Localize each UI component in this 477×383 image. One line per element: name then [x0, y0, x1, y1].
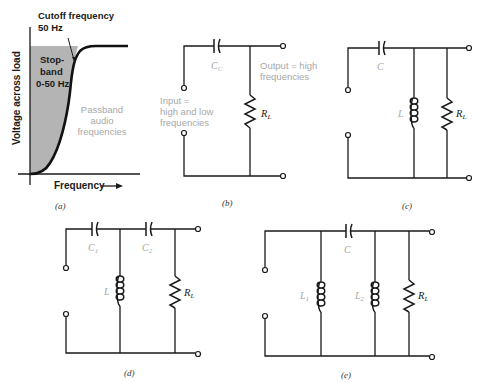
- resistor-label: RL: [417, 290, 428, 303]
- caption-c: (c): [402, 201, 412, 211]
- caption-b: (b): [222, 198, 233, 208]
- capacitor-icon: [346, 224, 352, 238]
- input-note-line3: frequencies: [160, 117, 209, 128]
- capacitor-label: C: [344, 244, 351, 255]
- input-terminal-bottom: [263, 314, 268, 319]
- output-terminal-bottom: [467, 176, 472, 181]
- input-terminal-top: [346, 88, 351, 93]
- resistor-icon: [170, 276, 180, 308]
- passband-label-line1: Passband: [81, 104, 123, 115]
- resistor-icon: [404, 280, 414, 312]
- y-axis-label: Voltage across load: [11, 51, 22, 145]
- resistor-label: RL: [455, 108, 466, 121]
- filter-figure: Cutoff frequency 50 Hz Stop- band 0-50 H…: [0, 0, 477, 383]
- panel-d-circuit: C1 C2 L RL (d): [64, 222, 201, 378]
- stopband-label-line1: Stop-: [40, 54, 64, 65]
- capacitor-1-icon: [92, 222, 98, 236]
- resistor-label: RL: [183, 287, 194, 300]
- caption-e: (e): [341, 370, 351, 380]
- input-note-line2: high and low: [160, 106, 213, 117]
- input-terminal-bottom: [64, 312, 69, 317]
- resistor-label: RL: [260, 108, 271, 121]
- caption-a: (a): [55, 201, 66, 211]
- output-terminal-top: [467, 46, 472, 51]
- panel-e-circuit: C L1 L2 RL (e): [263, 224, 435, 380]
- input-terminal-bottom: [346, 133, 351, 138]
- inductor-2-label: L2: [354, 290, 365, 303]
- output-terminal-bottom: [196, 352, 201, 357]
- output-terminal-top: [430, 230, 435, 235]
- panel-a-chart: Cutoff frequency 50 Hz Stop- band 0-50 H…: [11, 10, 140, 211]
- output-terminal-top: [196, 227, 201, 232]
- inductor-1-icon: [317, 282, 325, 312]
- stopband-label-line3: 0-50 Hz: [36, 78, 70, 89]
- output-note-line1: Output = high: [260, 60, 317, 71]
- input-note-line1: Input =: [160, 95, 190, 106]
- capacitor-2-icon: [146, 222, 152, 236]
- inductor-label: L: [103, 286, 110, 297]
- inductor-icon: [410, 98, 418, 128]
- inductor-label: L: [397, 108, 404, 119]
- capacitor-label: C: [377, 61, 384, 72]
- passband-label-line3: frequencies: [77, 126, 126, 137]
- capacitor-1-label: C1: [88, 242, 98, 255]
- x-axis-arrow-icon: [116, 183, 123, 189]
- caption-d: (d): [124, 368, 135, 378]
- capacitor-icon: [214, 39, 220, 53]
- capacitor-2-label: C2: [142, 242, 153, 255]
- output-terminal-top: [281, 44, 286, 49]
- panel-b-circuit: CC RL Output = high frequencies Input = …: [160, 39, 317, 208]
- inductor-2-icon: [371, 282, 379, 312]
- x-axis-label: Frequency: [54, 180, 105, 191]
- capacitor-label: CC: [211, 60, 223, 73]
- cutoff-annotation-line1: Cutoff frequency: [38, 10, 115, 21]
- inductor-1-label: L1: [299, 290, 309, 303]
- output-terminal-bottom: [281, 174, 286, 179]
- input-terminal-top: [64, 266, 69, 271]
- cutoff-annotation-line2: 50 Hz: [38, 22, 63, 33]
- input-terminal-top: [263, 268, 268, 273]
- inductor-icon: [116, 276, 124, 306]
- passband-label-line2: audio: [90, 115, 113, 126]
- panel-c-circuit: C L RL (c): [346, 41, 472, 211]
- resistor-icon: [442, 98, 452, 130]
- resistor-icon: [245, 95, 255, 128]
- capacitor-icon: [379, 41, 385, 55]
- input-terminal-top: [182, 86, 187, 91]
- input-terminal-bottom: [182, 131, 187, 136]
- output-note-line2: frequencies: [260, 71, 309, 82]
- output-terminal-bottom: [430, 355, 435, 360]
- stopband-label-line2: band: [40, 66, 63, 77]
